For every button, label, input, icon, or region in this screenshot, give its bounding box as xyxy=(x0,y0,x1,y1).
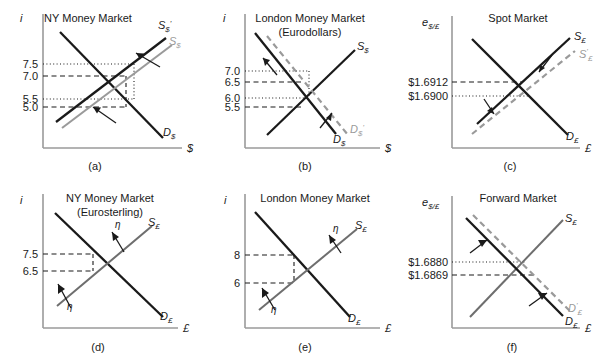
panel-e: i £ London Money Market 8 6 η η S£ D£ (e… xyxy=(205,180,405,361)
ytick-2: $1.6900 xyxy=(408,90,448,102)
panel-subtitle: (Eurodollars) xyxy=(279,26,342,38)
ytick-1: $1.6880 xyxy=(408,256,448,268)
x-axis-label: £ xyxy=(584,322,592,334)
ytick-4: 5.0 xyxy=(23,101,38,113)
curve-label-s: S£ xyxy=(355,219,367,234)
curve-label-d: D$ xyxy=(333,133,346,148)
ytick-2: 6.5 xyxy=(225,76,240,88)
ytick-2: $1.6869 xyxy=(408,269,448,281)
panel-title: Forward Market xyxy=(479,192,556,204)
movement-arrow-lower: η xyxy=(262,288,277,315)
panel-title: London Money Market xyxy=(260,192,369,204)
supply-curve xyxy=(259,229,357,310)
movement-arrow-upper: η xyxy=(329,223,341,253)
curve-label-s: S$ xyxy=(169,35,181,50)
shift-arrow-upper xyxy=(263,58,277,75)
panel-label: (e) xyxy=(298,341,311,353)
x-axis-label: $ xyxy=(384,142,392,154)
panel-title: London Money Market xyxy=(255,12,364,24)
ytick-2: 7.0 xyxy=(23,70,38,82)
ytick-1: $1.6912 xyxy=(408,76,448,88)
curve-label-s-prime: S'£ xyxy=(579,47,593,63)
shift-arrow-lower xyxy=(93,107,116,123)
y-axis-label: i xyxy=(20,12,23,24)
curve-label-d: D£ xyxy=(348,312,361,327)
ytick-1: 7.5 xyxy=(23,248,38,260)
supply-curve-shifted xyxy=(472,51,575,134)
panel-label: (d) xyxy=(91,341,104,353)
supply-curve-shifted xyxy=(56,38,166,122)
ytick-4: 5.5 xyxy=(225,101,240,113)
panel-a: i $ NY Money Market 7.5 7.0 5.5 5.0 S$' … xyxy=(0,0,210,180)
demand-curve-original xyxy=(255,33,336,134)
curve-label-s: S$ xyxy=(357,40,369,55)
panel-title: NY Money Market xyxy=(44,12,132,24)
panel-c: e$/£ £ Spot Market $1.6912 $1.6900 S£ S'… xyxy=(400,0,608,180)
curve-label-s: S£ xyxy=(565,212,577,227)
ytick-2: 6.5 xyxy=(23,265,38,277)
ytick-1: 8 xyxy=(234,249,240,261)
eta-label-upper: η xyxy=(333,223,339,234)
x-axis-label: $ xyxy=(186,142,194,154)
curve-label-d: D£ xyxy=(160,310,173,325)
panel-label: (f) xyxy=(507,341,517,353)
panel-d: i £ NY Money Market (Eurosterling) 7.5 6… xyxy=(0,180,210,361)
panel-title: Spot Market xyxy=(488,12,547,24)
eta-label-upper: η xyxy=(115,219,121,230)
y-axis-label: e$/£ xyxy=(422,196,440,211)
ytick-2: 6 xyxy=(234,277,240,289)
ytick-1: 7.5 xyxy=(23,58,38,70)
panel-title: NY Money Market xyxy=(66,192,154,204)
x-axis-label: £ xyxy=(384,322,392,334)
panel-f-axes xyxy=(452,196,580,328)
curve-label-s-prime: S$' xyxy=(158,19,172,34)
panel-subtitle: (Eurosterling) xyxy=(77,206,143,218)
curve-label-d-prime: D$' xyxy=(350,123,364,138)
y-axis-label: i xyxy=(224,194,227,206)
y-axis-label: i xyxy=(20,194,23,206)
panel-b: i $ London Money Market (Eurodollars) 7.… xyxy=(205,0,405,180)
movement-arrow-lower: η xyxy=(58,284,73,312)
eta-label-lower: η xyxy=(67,301,73,312)
economics-figure: i $ NY Money Market 7.5 7.0 5.5 5.0 S$' … xyxy=(0,0,608,361)
shift-arrow-upper xyxy=(136,53,160,67)
panel-label: (c) xyxy=(504,160,517,172)
movement-arrow-upper: η xyxy=(112,219,124,252)
demand-curve-original xyxy=(466,218,563,316)
panel-f: e$/£ £ Forward Market $1.6880 $1.6869 S£… xyxy=(400,180,608,361)
shift-arrow-lower xyxy=(529,293,547,306)
shift-arrow-lower xyxy=(484,99,494,114)
demand-curve-shifted xyxy=(267,36,348,135)
shift-arrow-upper xyxy=(470,240,487,253)
curve-label-d: D£ xyxy=(566,130,579,145)
x-axis-label: £ xyxy=(584,142,592,154)
panel-label: (a) xyxy=(88,160,101,172)
y-axis-label: i xyxy=(223,12,226,24)
panel-label: (b) xyxy=(298,160,311,172)
curve-label-s: S£ xyxy=(574,30,586,45)
y-axis-label: e$/£ xyxy=(422,16,440,31)
panel-e-axes xyxy=(245,194,380,328)
x-axis-label: £ xyxy=(182,322,190,334)
supply-curve-original xyxy=(62,45,172,128)
demand-curve xyxy=(60,32,163,138)
eta-label-lower: η xyxy=(271,304,277,315)
curve-label-d: D$ xyxy=(163,126,176,141)
